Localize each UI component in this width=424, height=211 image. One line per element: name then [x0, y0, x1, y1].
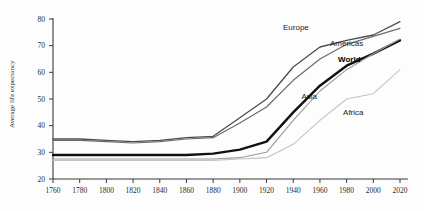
chart-canvas: 20304050607080 1760178018001820184018601… [0, 0, 424, 211]
life-expectancy-chart: 20304050607080 1760178018001820184018601… [0, 0, 424, 211]
series-label-world: World [338, 55, 361, 64]
y-axis-ticks: 20304050607080 [38, 15, 54, 184]
x-tick-label: 1840 [152, 186, 167, 195]
x-tick-label: 1800 [99, 186, 114, 195]
x-axis-ticks: 1760178018001820184018601880190019201940… [46, 179, 408, 195]
y-tick-label: 40 [38, 121, 46, 130]
y-tick-label: 30 [38, 148, 46, 157]
x-tick-label: 1820 [126, 186, 141, 195]
x-tick-label: 1900 [232, 186, 247, 195]
y-tick-label: 20 [38, 175, 46, 184]
series-annotations: EuropeAmericasWorldAsiaAfrica [283, 23, 364, 117]
series-label-americas: Americas [330, 39, 363, 48]
y-tick-label: 50 [38, 95, 46, 104]
x-tick-label: 2000 [366, 186, 381, 195]
y-tick-label: 80 [38, 15, 46, 24]
x-tick-label: 1920 [259, 186, 274, 195]
series-label-europe: Europe [283, 23, 309, 32]
series-label-africa: Africa [343, 108, 364, 117]
x-tick-label: 1780 [72, 186, 87, 195]
y-tick-label: 60 [38, 68, 46, 77]
x-tick-label: 1960 [312, 186, 327, 195]
y-axis-title: Average life expectancy [8, 60, 16, 128]
x-tick-label: 1760 [46, 186, 61, 195]
x-tick-label: 1940 [286, 186, 301, 195]
y-tick-label: 70 [38, 41, 46, 50]
x-tick-label: 1980 [339, 186, 354, 195]
x-tick-label: 1880 [206, 186, 221, 195]
x-tick-label: 1860 [179, 186, 194, 195]
series-label-asia: Asia [301, 92, 317, 101]
x-tick-label: 2020 [393, 186, 408, 195]
